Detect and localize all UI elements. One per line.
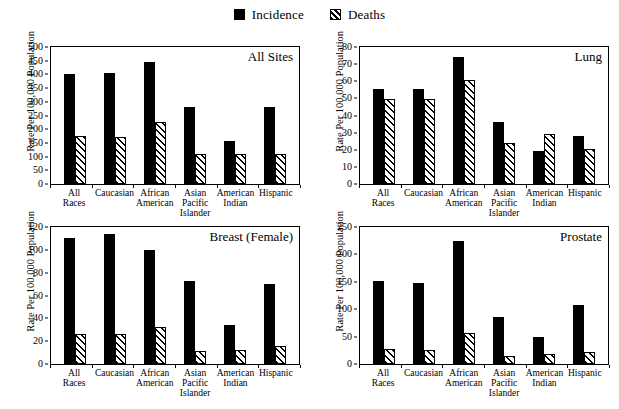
chart-panel-lung: Rate Per 100,000 Population 010203040506… bbox=[311, 36, 619, 226]
bar-deaths[interactable] bbox=[504, 356, 515, 364]
y-axis-tick-label: 30 bbox=[342, 128, 352, 138]
bar-deaths[interactable] bbox=[155, 327, 166, 364]
y-axis-tick-mark bbox=[354, 309, 357, 310]
y-axis-tick-label: 250 bbox=[337, 222, 352, 232]
y-axis-tick-mark bbox=[354, 81, 357, 82]
x-axis-category-label: All Races bbox=[54, 188, 94, 218]
solid-black-square-icon bbox=[234, 9, 245, 20]
bar-deaths[interactable] bbox=[424, 99, 435, 184]
bar-incidence[interactable] bbox=[453, 57, 464, 184]
x-axis-category-label: Caucasian bbox=[94, 188, 134, 218]
bar-incidence[interactable] bbox=[533, 337, 544, 364]
bar-incidence[interactable] bbox=[413, 89, 424, 184]
y-axis-tick-label: 20 bbox=[33, 336, 43, 346]
bar-incidence[interactable] bbox=[264, 284, 275, 364]
bar-group bbox=[224, 47, 246, 184]
bar-deaths[interactable] bbox=[75, 136, 86, 184]
bar-incidence[interactable] bbox=[573, 136, 584, 184]
y-axis-tick-mark bbox=[45, 115, 48, 116]
y-axis-tick-mark bbox=[45, 170, 48, 171]
bar-deaths[interactable] bbox=[464, 333, 475, 364]
x-axis-category-label: African American bbox=[444, 368, 484, 398]
bar-deaths[interactable] bbox=[584, 149, 595, 184]
bar-incidence[interactable] bbox=[493, 317, 504, 364]
y-axis-tick-mark bbox=[354, 149, 357, 150]
bar-deaths[interactable] bbox=[235, 350, 246, 364]
bar-incidence[interactable] bbox=[373, 89, 384, 184]
bar-group bbox=[533, 47, 555, 184]
bar-incidence[interactable] bbox=[64, 74, 75, 184]
plot-area: Breast (Female) bbox=[50, 226, 300, 365]
bar-incidence[interactable] bbox=[184, 281, 195, 364]
x-axis-category-label: African American bbox=[135, 368, 175, 398]
y-axis-tick-label: 0 bbox=[38, 359, 43, 369]
bar-deaths[interactable] bbox=[424, 350, 435, 364]
bar-deaths[interactable] bbox=[504, 143, 515, 184]
bar-deaths[interactable] bbox=[115, 137, 126, 184]
bar-incidence[interactable] bbox=[373, 281, 384, 364]
bar-deaths[interactable] bbox=[384, 99, 395, 184]
y-axis-tick-label: 100 bbox=[28, 245, 43, 255]
bar-deaths[interactable] bbox=[544, 354, 555, 364]
x-axis-tick-mark bbox=[609, 185, 610, 188]
bar-deaths[interactable] bbox=[115, 334, 126, 364]
x-axis-tick-mark bbox=[609, 365, 610, 368]
y-axis-tick-label: 300 bbox=[28, 97, 43, 107]
bar-incidence[interactable] bbox=[144, 250, 155, 364]
bar-group bbox=[413, 47, 435, 184]
bar-groups bbox=[51, 227, 299, 364]
bar-incidence[interactable] bbox=[144, 62, 155, 184]
y-axis-tick-mark bbox=[45, 142, 48, 143]
bar-deaths[interactable] bbox=[275, 346, 286, 364]
y-axis-ticks: 01020304050607080 bbox=[329, 47, 357, 184]
y-axis-tick-mark bbox=[45, 47, 48, 48]
x-axis-category-label: Asian Pacific Islander bbox=[484, 188, 524, 218]
bar-deaths[interactable] bbox=[584, 352, 595, 364]
bar-incidence[interactable] bbox=[184, 107, 195, 184]
y-axis-tick-mark bbox=[354, 254, 357, 255]
bar-deaths[interactable] bbox=[275, 154, 286, 184]
x-axis-category-label: American Indian bbox=[215, 368, 255, 398]
bar-incidence[interactable] bbox=[104, 234, 115, 364]
y-axis-tick-mark bbox=[45, 227, 48, 228]
y-axis-tick-label: 0 bbox=[347, 179, 352, 189]
bar-incidence[interactable] bbox=[224, 141, 235, 184]
bar-group bbox=[493, 227, 515, 364]
bar-incidence[interactable] bbox=[573, 305, 584, 364]
bar-group bbox=[104, 227, 126, 364]
bar-incidence[interactable] bbox=[413, 283, 424, 364]
bar-incidence[interactable] bbox=[64, 238, 75, 364]
y-axis-tick-mark bbox=[354, 184, 357, 185]
bar-deaths[interactable] bbox=[75, 334, 86, 364]
y-axis-tick-label: 10 bbox=[342, 162, 352, 172]
chart-panel-breast-female: Rate Per 100,000 Population 020406080100… bbox=[2, 216, 310, 406]
bar-deaths[interactable] bbox=[384, 349, 395, 364]
bar-incidence[interactable] bbox=[224, 325, 235, 364]
bar-group bbox=[224, 227, 246, 364]
bar-group bbox=[453, 47, 475, 184]
bar-incidence[interactable] bbox=[104, 73, 115, 184]
bar-group bbox=[104, 47, 126, 184]
bar-group bbox=[144, 227, 166, 364]
bar-deaths[interactable] bbox=[544, 134, 555, 184]
y-axis-tick-mark bbox=[45, 364, 48, 365]
x-axis-category-label: Asian Pacific Islander bbox=[484, 368, 524, 398]
y-axis-ticks: 020406080100120 bbox=[20, 227, 48, 364]
y-axis-tick-mark bbox=[45, 129, 48, 130]
x-axis-labels: All RacesCaucasianAfrican AmericanAsian … bbox=[359, 368, 609, 398]
y-axis-tick-mark bbox=[45, 101, 48, 102]
bar-incidence[interactable] bbox=[264, 107, 275, 184]
bar-deaths[interactable] bbox=[464, 80, 475, 184]
y-axis-tick-label: 80 bbox=[33, 268, 43, 278]
bar-incidence[interactable] bbox=[493, 122, 504, 184]
y-axis-tick-label: 350 bbox=[28, 83, 43, 93]
bar-deaths[interactable] bbox=[235, 154, 246, 184]
bar-incidence[interactable] bbox=[533, 151, 544, 184]
bar-deaths[interactable] bbox=[155, 122, 166, 184]
y-axis-tick-mark bbox=[354, 98, 357, 99]
bar-incidence[interactable] bbox=[453, 241, 464, 364]
bar-deaths[interactable] bbox=[195, 351, 206, 364]
bar-deaths[interactable] bbox=[195, 154, 206, 184]
plot-area: All Sites bbox=[50, 46, 300, 185]
legend-item-incidence: Incidence bbox=[234, 8, 304, 21]
